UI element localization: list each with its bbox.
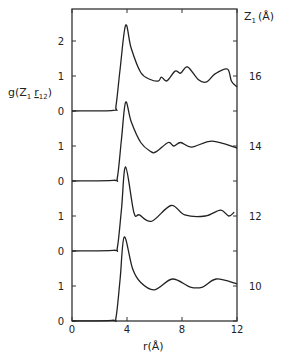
y-tick-label: 2 bbox=[58, 36, 64, 47]
y-tick-label: 1 bbox=[58, 281, 64, 292]
curve-label: 12 bbox=[249, 211, 262, 222]
x-tick-label: 12 bbox=[231, 324, 244, 335]
curve-label: 14 bbox=[249, 141, 262, 152]
curve-label: 16 bbox=[249, 71, 262, 82]
y-tick-label: 1 bbox=[58, 71, 64, 82]
x-tick-label: 8 bbox=[179, 324, 185, 335]
x-tick-label: 4 bbox=[124, 324, 130, 335]
curve-label: 10 bbox=[249, 281, 262, 292]
y-tick-label: 1 bbox=[58, 211, 64, 222]
curve-z16 bbox=[72, 25, 237, 111]
chart: 0481201010101216141210 g(Z1r12) Z1(Å) r(… bbox=[0, 0, 283, 357]
curve-z10 bbox=[72, 237, 237, 321]
y-tick-label: 0 bbox=[58, 316, 64, 327]
y-tick-label: 1 bbox=[58, 141, 64, 152]
plot-frame bbox=[72, 9, 237, 321]
axis-ticks bbox=[72, 9, 237, 321]
y-axis-label: g(Z1r12) bbox=[8, 86, 52, 101]
x-tick-label: 0 bbox=[69, 324, 75, 335]
curve-z12 bbox=[72, 167, 234, 251]
x-axis-label: r(Å) bbox=[143, 340, 164, 353]
curve-z14 bbox=[72, 102, 237, 181]
y-tick-label: 0 bbox=[58, 106, 64, 117]
curves bbox=[72, 25, 237, 321]
right-axis-label: Z1(Å) bbox=[244, 10, 274, 25]
y-tick-label: 0 bbox=[58, 246, 64, 257]
y-tick-label: 0 bbox=[58, 176, 64, 187]
